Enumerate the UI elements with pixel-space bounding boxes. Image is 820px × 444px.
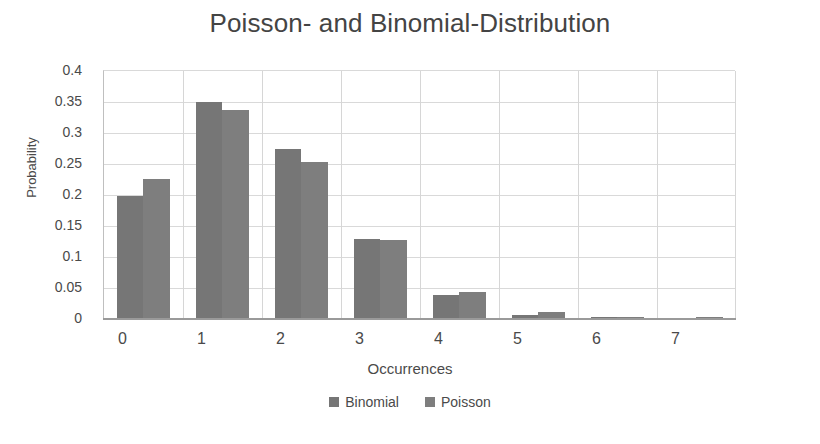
y-tick-label: 0 <box>18 311 82 325</box>
x-tick-label: 2 <box>261 330 301 348</box>
legend-item-poisson[interactable]: Poisson <box>425 394 491 410</box>
bar-binomial-4[interactable] <box>433 295 459 318</box>
legend-label: Poisson <box>441 394 491 410</box>
bar-poisson-0[interactable] <box>143 179 169 318</box>
gridline-vertical <box>341 71 342 318</box>
y-tick-label: 0.4 <box>18 63 82 77</box>
chart-title: Poisson- and Binomial-Distribution <box>0 8 820 39</box>
chart-container: Poisson- and Binomial-Distribution Proba… <box>0 0 820 444</box>
x-tick-label: 5 <box>498 330 538 348</box>
legend-item-binomial[interactable]: Binomial <box>329 394 399 410</box>
x-axis-title: Occurrences <box>0 360 820 377</box>
legend-label: Binomial <box>345 394 399 410</box>
x-tick-label: 1 <box>182 330 222 348</box>
bar-binomial-3[interactable] <box>354 239 380 318</box>
bar-group <box>591 71 644 318</box>
bar-group <box>275 71 328 318</box>
x-axis-line <box>103 318 736 320</box>
gridline-vertical <box>420 71 421 318</box>
x-tick-label: 7 <box>656 330 696 348</box>
bar-binomial-1[interactable] <box>196 102 222 318</box>
gridline-vertical <box>262 71 263 318</box>
y-tick-label: 0.2 <box>18 187 82 201</box>
y-tick-label: 0.05 <box>18 280 82 294</box>
bar-poisson-4[interactable] <box>459 292 485 318</box>
y-tick-label: 0.3 <box>18 125 82 139</box>
x-tick-label: 3 <box>340 330 380 348</box>
gridline-vertical <box>735 71 736 318</box>
bar-binomial-0[interactable] <box>117 196 143 318</box>
bar-poisson-2[interactable] <box>301 162 327 318</box>
gridline-vertical <box>183 71 184 318</box>
y-tick-label: 0.35 <box>18 94 82 108</box>
gridline-vertical <box>578 71 579 318</box>
plot-area <box>103 70 735 318</box>
bar-group <box>117 71 170 318</box>
bar-group <box>196 71 249 318</box>
chart-legend: BinomialPoisson <box>0 394 820 410</box>
y-tick-label: 0.25 <box>18 156 82 170</box>
bar-group <box>433 71 486 318</box>
x-tick-label: 6 <box>577 330 617 348</box>
gridline-vertical <box>499 71 500 318</box>
x-tick-label: 4 <box>419 330 459 348</box>
legend-swatch-icon <box>329 397 339 407</box>
bar-group <box>512 71 565 318</box>
bar-poisson-3[interactable] <box>380 240 406 318</box>
bar-poisson-1[interactable] <box>222 110 248 318</box>
bar-binomial-2[interactable] <box>275 149 301 318</box>
bar-group <box>354 71 407 318</box>
y-tick-label: 0.1 <box>18 249 82 263</box>
y-tick-label: 0.15 <box>18 218 82 232</box>
legend-swatch-icon <box>425 397 435 407</box>
x-tick-label: 0 <box>103 330 143 348</box>
bar-group <box>670 71 723 318</box>
gridline-vertical <box>657 71 658 318</box>
